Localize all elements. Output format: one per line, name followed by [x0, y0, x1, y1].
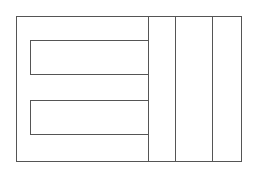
vertical-divider-1	[148, 16, 149, 162]
inner-box-bottom	[30, 100, 149, 135]
outer-frame	[16, 16, 242, 162]
vertical-divider-3	[212, 16, 213, 162]
diagram-canvas	[0, 0, 256, 176]
inner-box-top	[30, 40, 149, 75]
vertical-divider-2	[175, 16, 176, 162]
